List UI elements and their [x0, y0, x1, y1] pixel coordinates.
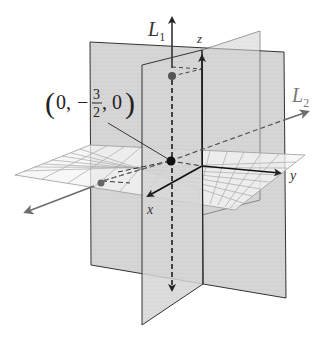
svg-text:3: 3: [93, 87, 100, 102]
diagram-canvas: L1 L2 z y x ( 0, − 3 2 , 0 ): [0, 0, 325, 343]
point-on-L1: [168, 72, 176, 80]
label-x-axis: x: [146, 202, 154, 217]
svg-text:−: −: [77, 91, 88, 113]
label-y-axis: y: [288, 168, 297, 183]
svg-text:0,: 0,: [56, 91, 71, 113]
point-intersection: [167, 157, 176, 166]
label-z-axis: z: [196, 31, 202, 46]
svg-text:): ): [125, 86, 135, 120]
label-L1: L1: [147, 18, 165, 44]
svg-text:, 0: , 0: [102, 91, 122, 113]
label-L2: L2: [291, 84, 309, 110]
svg-text:(: (: [45, 86, 55, 120]
svg-text:2: 2: [93, 105, 100, 120]
point-on-L2: [98, 180, 105, 187]
